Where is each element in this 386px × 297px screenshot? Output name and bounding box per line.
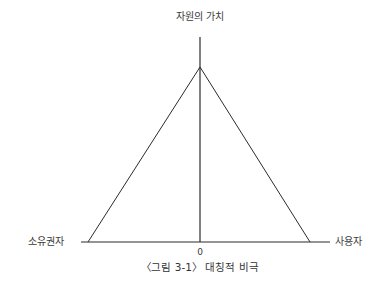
- symmetric-tragedy-diagram: [0, 0, 386, 297]
- figure-caption: 〈그림 3-1〉 대칭적 비극: [141, 262, 258, 273]
- origin-label: 0: [197, 248, 203, 257]
- owner-label: 소유권자: [28, 237, 64, 247]
- triangle-left-edge: [88, 67, 200, 242]
- user-label: 사용자: [335, 237, 362, 247]
- triangle-right-edge: [200, 67, 310, 242]
- resource-value-label: 자원의 가치: [176, 12, 224, 22]
